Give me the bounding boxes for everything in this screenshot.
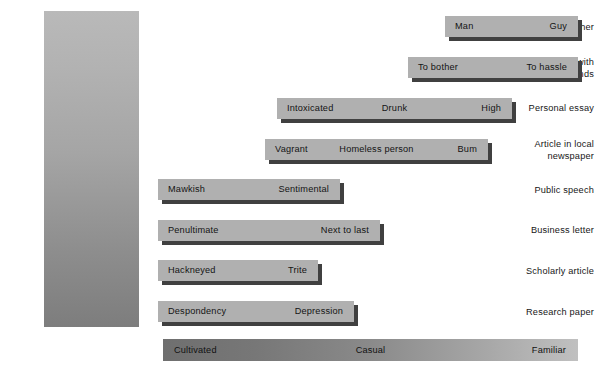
summary-term-familiar: Familiar: [532, 339, 566, 361]
summary-term-casual: Casual: [163, 339, 578, 361]
category-label-business-letter: Business letter: [508, 225, 594, 237]
scale-bar-scholarly-article: Hackneyed Trite: [158, 260, 318, 281]
term-trite: Trite: [288, 260, 307, 281]
scale-bar-research-paper: Despondency Depression: [158, 301, 354, 322]
term-high: High: [481, 98, 501, 119]
term-sentimental: Sentimental: [278, 179, 329, 200]
term-penultimate: Penultimate: [168, 220, 219, 241]
category-label-article-in-local-newspaper: Article in local newspaper: [508, 139, 594, 162]
term-bum: Bum: [458, 139, 477, 160]
term-homeless-person: Homeless person: [265, 139, 488, 160]
scale-bar-business-letter: Penultimate Next to last: [158, 220, 380, 241]
scale-bar-letter-to-mother: Man Guy: [445, 16, 578, 37]
scale-bar-article-in-local-newspaper: Vagrant Homeless person Bum: [265, 139, 488, 160]
term-guy: Guy: [550, 16, 567, 37]
summary-scale-bar: Cultivated Casual Familiar: [163, 339, 578, 361]
term-mawkish: Mawkish: [168, 179, 205, 200]
scale-bar-conversation-with-friends: To bother To hassle: [408, 57, 578, 78]
term-man: Man: [455, 16, 473, 37]
term-to-bother: To bother: [418, 57, 458, 78]
term-drunk: Drunk: [277, 98, 512, 119]
category-column: [44, 11, 139, 327]
category-label-scholarly-article: Scholarly article: [508, 266, 594, 278]
scale-bar-public-speech: Mawkish Sentimental: [158, 179, 340, 200]
term-to-hassle: To hassle: [527, 57, 567, 78]
term-depression: Depression: [295, 301, 343, 322]
scale-bar-personal-essay: Intoxicated Drunk High: [277, 98, 512, 119]
category-label-research-paper: Research paper: [508, 307, 594, 319]
term-despondency: Despondency: [168, 301, 226, 322]
register-scale-figure: Letter to mother Conversation with frien…: [0, 0, 601, 377]
term-hackneyed: Hackneyed: [168, 260, 216, 281]
term-next-to-last: Next to last: [321, 220, 369, 241]
category-label-personal-essay: Personal essay: [508, 103, 594, 115]
category-label-public-speech: Public speech: [508, 185, 594, 197]
